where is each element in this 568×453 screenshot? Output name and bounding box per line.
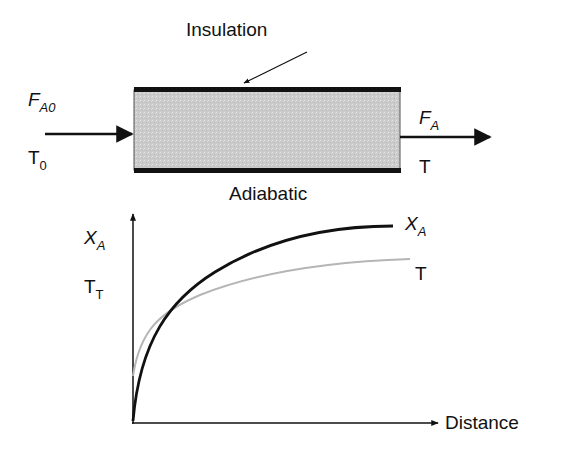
inlet-flow-subscript: A0 — [40, 100, 56, 115]
temperature-curve — [133, 259, 410, 376]
insulation-label: Insulation — [186, 20, 267, 39]
insulation-bottom-wall — [134, 168, 401, 173]
series-label-temperature: T — [415, 264, 427, 283]
insulation-pointer-arrow — [244, 52, 307, 83]
y-label-temperature: TT — [84, 277, 104, 296]
inlet-temp-label: T0 — [28, 148, 47, 167]
series-label-conversion: XA — [405, 214, 426, 233]
outlet-flow-label: FA — [419, 108, 439, 127]
inlet-flow-label: FA0 — [28, 90, 56, 109]
inlet-temp-subscript: 0 — [40, 158, 47, 173]
insulation-top-wall — [134, 87, 401, 92]
inlet-flow-symbol: F — [28, 89, 40, 110]
conversion-curve — [133, 226, 393, 421]
x-axis-label: Distance — [445, 413, 519, 432]
outlet-temp-label: T — [419, 157, 431, 176]
outlet-flow-subscript: A — [431, 118, 440, 133]
y-label-conversion: XA — [84, 228, 105, 247]
inlet-temp-symbol: T — [28, 147, 40, 168]
outlet-flow-symbol: F — [419, 107, 431, 128]
adiabatic-label: Adiabatic — [229, 184, 307, 203]
reactor-body — [134, 90, 400, 170]
